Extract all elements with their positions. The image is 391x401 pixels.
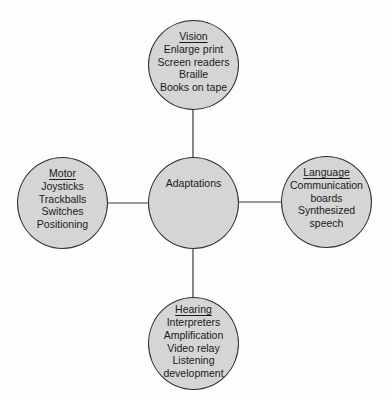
node-hearing-item: Interpreters bbox=[167, 316, 221, 329]
node-vision-title: Vision bbox=[179, 30, 207, 43]
node-center-adaptations: Adaptations bbox=[148, 157, 239, 249]
node-hearing-title: Hearing bbox=[175, 303, 212, 316]
node-motor-item: Joysticks bbox=[41, 180, 84, 193]
node-motor-title: Motor bbox=[49, 167, 76, 180]
node-hearing: Hearing Interpreters Amplification Video… bbox=[148, 297, 239, 390]
adaptations-diagram: Vision Enlarge print Screen readers Brai… bbox=[0, 0, 391, 401]
node-motor-item: Switches bbox=[41, 205, 83, 218]
node-hearing-item: Amplification bbox=[164, 329, 224, 342]
node-vision-item: Screen readers bbox=[158, 56, 230, 69]
node-motor: Motor Joysticks Trackballs Switches Posi… bbox=[17, 157, 108, 249]
node-language-item: Communication bbox=[290, 179, 363, 192]
node-vision: Vision Enlarge print Screen readers Brai… bbox=[148, 20, 239, 110]
node-language-title: Language bbox=[303, 166, 350, 179]
node-vision-item: Books on tape bbox=[160, 81, 227, 94]
node-vision-item: Enlarge print bbox=[164, 43, 224, 56]
node-hearing-item: Listening bbox=[172, 354, 214, 367]
node-center-label: Adaptations bbox=[166, 177, 221, 190]
node-language-item: Synthesized bbox=[298, 204, 355, 217]
node-language-item: boards bbox=[310, 192, 342, 205]
node-motor-item: Positioning bbox=[37, 218, 88, 231]
node-hearing-item: Video relay bbox=[167, 342, 219, 355]
node-vision-item: Braille bbox=[179, 68, 208, 81]
node-hearing-item: development bbox=[163, 367, 223, 380]
node-motor-item: Trackballs bbox=[39, 193, 86, 206]
node-language: Language Communication boards Synthesize… bbox=[281, 156, 372, 248]
node-language-item: speech bbox=[310, 217, 344, 230]
